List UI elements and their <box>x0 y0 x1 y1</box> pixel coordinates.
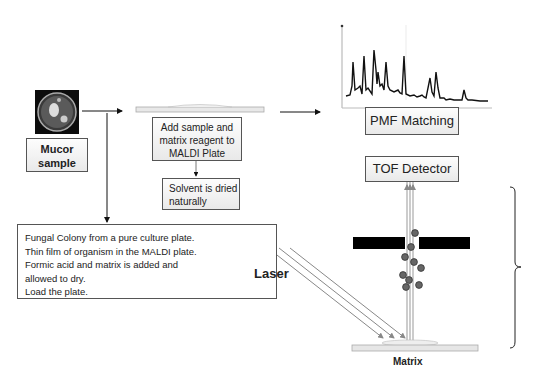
note-line: allowed to dry. <box>25 272 276 286</box>
note-line: Fungal Colony from a pure culture plate. <box>25 231 276 245</box>
sample-label-line: Mucor <box>27 142 87 156</box>
step-text: matrix reagent to <box>153 134 241 147</box>
step-text: Solvent is dried <box>169 182 239 195</box>
note-line: Load the plate. <box>25 285 276 299</box>
matrix-label: Matrix <box>393 356 422 367</box>
note-line: Thin film of organism in the MALDI plate… <box>25 245 276 259</box>
maldi-plate <box>136 107 264 112</box>
step-text: naturally <box>169 195 239 208</box>
tof-detector-label: TOF Detector <box>365 156 459 182</box>
petri-dish-photo <box>35 90 79 134</box>
accelerator-plate-left <box>353 237 405 249</box>
petri-dish-icon <box>35 90 79 134</box>
laser-label: Laser <box>254 266 289 281</box>
step-text: MALDI Plate <box>153 147 241 160</box>
accelerator-plate-right <box>419 237 470 249</box>
diagram-connectors <box>0 0 540 386</box>
bracket <box>510 187 521 348</box>
sample-label-line: sample <box>27 156 87 170</box>
mass-spectrum <box>341 25 492 108</box>
add-sample-step: Add sample and matrix reagent to MALDI P… <box>152 117 242 161</box>
mucor-sample-label: Mucor sample <box>26 138 88 172</box>
laser-beams <box>268 248 405 338</box>
note-line: Formic acid and matrix is added and <box>25 258 276 272</box>
pmf-matching-label: PMF Matching <box>365 107 459 135</box>
solvent-dried-step: Solvent is dried naturally <box>162 178 240 210</box>
preparation-notes: Fungal Colony from a pure culture plate.… <box>17 224 277 299</box>
target-plate <box>352 345 478 351</box>
step-text: Add sample and <box>153 121 241 134</box>
